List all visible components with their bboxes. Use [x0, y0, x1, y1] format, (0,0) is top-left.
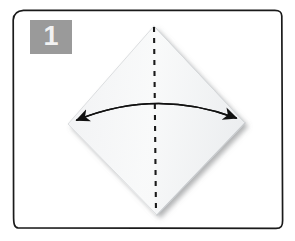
step-number-text: 1: [43, 23, 58, 50]
step-number-badge-label: 1: [30, 20, 72, 54]
figure-canvas: 1: [0, 0, 295, 241]
